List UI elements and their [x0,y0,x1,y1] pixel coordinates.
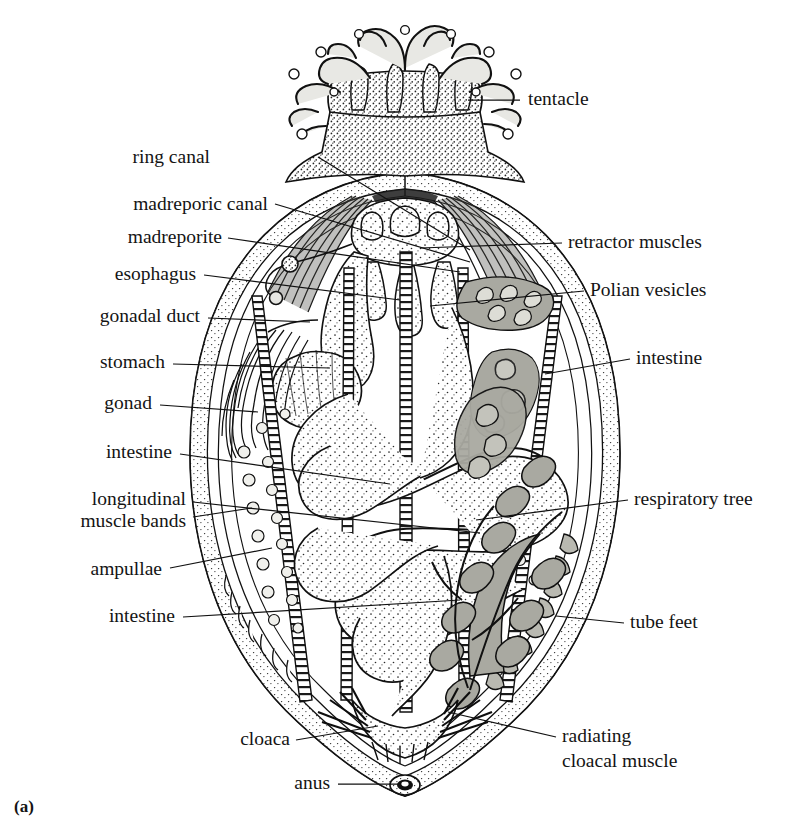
label-longitudinal-muscle-bands-2: muscle bands [80,510,186,531]
label-longitudinal-muscle-bands-1: longitudinal [92,488,187,509]
label-tube-feet: tube feet [630,611,698,632]
label-anus: anus [294,772,330,793]
label-tentacle: tentacle [528,88,589,109]
label-respiratory-tree: respiratory tree [634,488,753,509]
label-radiating-cloacal-muscle-1: radiating [562,725,632,746]
label-stomach: stomach [100,351,165,372]
figure-caption: (a) [14,797,34,816]
label-cloaca: cloaca [240,728,290,749]
label-gonadal-duct: gonadal duct [100,305,201,326]
label-intestine-upper-left: intestine [106,441,172,462]
label-gonad: gonad [104,392,152,413]
label-polian-vesicles: Polian vesicles [590,279,706,300]
label-intestine-right: intestine [636,347,702,368]
label-ampullae: ampullae [91,558,162,579]
leader-intestine-right [545,359,630,374]
anus-graphic [390,775,420,795]
label-radiating-cloacal-muscle-2: cloacal muscle [562,750,677,771]
diagram-canvas: ring canalmadreporic canalmadreporiteeso… [0,0,811,834]
label-esophagus: esophagus [115,263,196,284]
label-madreporite: madreporite [128,226,222,247]
label-madreporic-canal: madreporic canal [133,193,268,214]
anatomical-figure: ring canalmadreporic canalmadreporiteeso… [0,0,811,834]
label-ring-canal: ring canal [133,146,211,167]
labels-right-group: tentacleretractor musclesPolian vesicles… [528,88,753,771]
label-intestine-lower-left: intestine [109,605,175,626]
label-retractor-muscles: retractor muscles [568,231,702,252]
